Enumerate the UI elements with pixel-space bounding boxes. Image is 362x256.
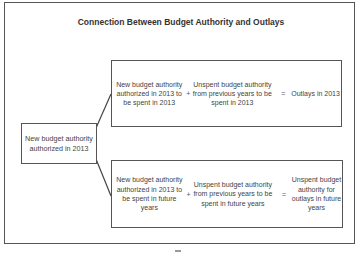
bottom-equation-row: New budget authority authorized in 2013 … [112, 161, 342, 227]
source-box: New budget authority authorized in 2013 [21, 123, 97, 164]
top-equals-operator: = [276, 90, 290, 97]
top-plus-operator: + [184, 90, 192, 97]
bottom-equals-operator: = [277, 191, 291, 198]
bottom-term-unspent-authority: Unspent budget authority from previous y… [193, 180, 274, 208]
top-equation-row: New budget authority authorized in 2013 … [112, 61, 341, 126]
source-label: New budget authority authorized in 2013 [22, 124, 96, 163]
top-term-new-authority: New budget authority authorized in 2013 … [114, 80, 184, 108]
top-term-unspent-authority: Unspent budget authority from previous y… [192, 80, 272, 108]
page-marker [175, 250, 181, 252]
bottom-result-unspent-future: Unspent budget authority for outlays in … [291, 175, 342, 212]
top-result-outlays: Outlays in 2013 [290, 89, 341, 98]
top-equation-box: New budget authority authorized in 2013 … [111, 60, 342, 127]
bottom-term-new-authority: New budget authority authorized in 2013 … [114, 175, 185, 212]
bottom-plus-operator: + [185, 191, 193, 198]
connector-to-top-box [96, 94, 111, 128]
bottom-equation-box: New budget authority authorized in 2013 … [111, 160, 343, 228]
connector-to-bottom-box [96, 159, 111, 196]
